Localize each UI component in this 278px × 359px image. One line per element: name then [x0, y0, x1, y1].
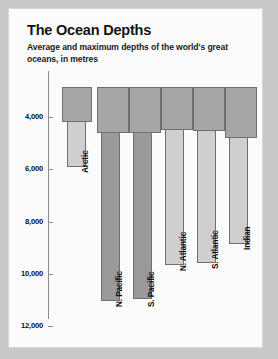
bar-average-depth — [129, 87, 161, 133]
bar-label: N. Atlantic — [179, 232, 188, 271]
bar-average-depth — [97, 87, 129, 133]
plot-area: 4,0006,0008,00010,00012,000 ArcticN. Pac… — [9, 9, 264, 349]
bar-average-depth — [225, 87, 257, 138]
bar-series: ArcticN. PacificS. PacificN. AtlanticS. … — [9, 9, 264, 349]
bar-average-depth — [161, 87, 193, 130]
bar-average-depth — [62, 87, 92, 122]
bar-label: Indian — [243, 226, 252, 250]
bar-label: N. Pacific — [115, 271, 124, 307]
bar-label: Arctic — [81, 150, 90, 173]
bar-label: S. Atlantic — [211, 230, 220, 269]
chart-card: The Ocean Depths Average and maximum dep… — [8, 8, 263, 348]
bar-label: S. Pacific — [147, 272, 156, 307]
bar-average-depth — [193, 87, 225, 131]
